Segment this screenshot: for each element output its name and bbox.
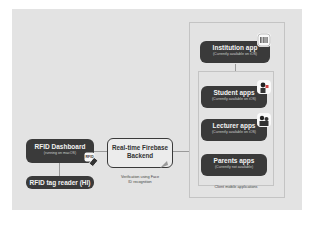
lecturer-avatar-icon [257, 113, 271, 127]
student-avatar-icon [257, 80, 271, 94]
rfid-tag-reader-node: RFID tag reader (HI) [26, 176, 94, 189]
node-title: Parents apps [201, 157, 267, 165]
connector-institution-users [235, 64, 236, 71]
node-subtitle: (Currently not available) [201, 165, 267, 170]
svg-text:RFID: RFID [86, 155, 95, 159]
node-title: RFID tag reader (HI) [26, 179, 94, 187]
client-apps-group-label: Client mobile applications [206, 185, 266, 190]
connector-backend-clients [173, 151, 189, 152]
parents-apps-node: Parents apps (Currently not available) [201, 154, 267, 176]
node-subtitle: (Currently available on iOS) [201, 130, 267, 135]
node-subtitle: (Currently available on iOS) [200, 52, 270, 57]
rfid-card-icon: RFID [84, 152, 100, 168]
face-id-icon [159, 155, 169, 165]
node-subtitle: (Currently available on iOS) [201, 97, 267, 102]
barcode-icon [257, 33, 271, 47]
node-title: RFID Dashboard [26, 143, 94, 151]
verification-caption: Verification using Face ID recognition [120, 175, 160, 185]
